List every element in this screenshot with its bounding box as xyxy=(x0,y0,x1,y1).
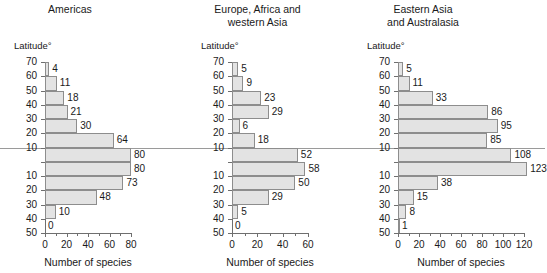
bar xyxy=(45,205,56,219)
bar xyxy=(398,219,400,233)
x-axis-minor-tick xyxy=(270,233,271,236)
x-axis-major-tick xyxy=(232,233,233,237)
y-axis-tick-label: 30 xyxy=(196,199,224,210)
x-axis-tick-label: 20 xyxy=(243,239,271,250)
y-axis-tick-label: 30 xyxy=(9,199,37,210)
x-axis-minor-tick xyxy=(472,233,473,236)
y-axis-tick-label: 40 xyxy=(362,213,390,224)
bar-value-label: 10 xyxy=(59,206,70,217)
y-axis-tick-label: 10 xyxy=(362,170,390,181)
x-axis-minor-tick xyxy=(295,233,296,236)
y-axis-tick-label: 40 xyxy=(9,99,37,110)
bar-value-label: 15 xyxy=(417,191,428,202)
bar-value-label: 11 xyxy=(413,77,423,88)
bar-value-label: 33 xyxy=(436,92,447,103)
y-axis-tick-label: 70 xyxy=(196,56,224,67)
panel-americas: AmericasLatitude°70605040302010102030405… xyxy=(0,0,175,273)
bar-value-label: 58 xyxy=(308,163,319,174)
x-axis-minor-tick xyxy=(409,233,410,236)
y-axis-tick-label: 40 xyxy=(196,99,224,110)
bar-value-label: 11 xyxy=(60,77,70,88)
bar-value-label: 29 xyxy=(272,106,283,117)
bar xyxy=(232,91,261,105)
x-axis-caption: Number of species xyxy=(210,256,330,268)
bar-value-label: 73 xyxy=(126,177,137,188)
bar xyxy=(398,205,406,219)
x-axis-major-tick xyxy=(398,233,399,237)
bar xyxy=(232,76,243,90)
bar xyxy=(232,62,238,76)
bar xyxy=(398,148,511,162)
bar xyxy=(398,105,488,119)
bar-value-label: 0 xyxy=(235,220,241,231)
bar xyxy=(45,76,57,90)
x-axis-caption: Number of species xyxy=(376,256,546,268)
bar xyxy=(232,105,269,119)
y-axis-tick-label: 50 xyxy=(196,227,224,238)
x-axis-tick-label: 80 xyxy=(117,239,145,250)
bar xyxy=(232,176,295,190)
y-axis-tick-label: 20 xyxy=(362,127,390,138)
latitude-axis-title: Latitude° xyxy=(367,40,405,51)
x-axis-caption: Number of species xyxy=(23,256,153,268)
bar-value-label: 5 xyxy=(241,206,247,217)
y-axis-tick-label: 10 xyxy=(362,142,390,153)
bar xyxy=(398,176,438,190)
bar-value-label: 18 xyxy=(258,134,269,145)
y-axis-tick-label: 20 xyxy=(362,184,390,195)
x-axis-major-tick xyxy=(461,233,462,237)
bar xyxy=(232,119,240,133)
bar-value-label: 5 xyxy=(406,63,412,74)
bar xyxy=(45,62,49,76)
x-axis-tick-label: 40 xyxy=(269,239,297,250)
bar xyxy=(398,76,410,90)
y-axis-tick-label: 20 xyxy=(9,184,37,195)
plot-area: 7060504030201010203040500204060801001205… xyxy=(398,62,524,233)
x-axis-tick-label: 120 xyxy=(510,239,538,250)
x-axis-major-tick xyxy=(45,233,46,237)
bar-value-label: 23 xyxy=(264,92,275,103)
bar xyxy=(45,190,97,204)
y-axis-tick-label: 50 xyxy=(362,85,390,96)
x-axis-minor-tick xyxy=(120,233,121,236)
x-axis-major-tick xyxy=(67,233,68,237)
y-axis-tick xyxy=(41,219,45,220)
y-axis-tick-label: 30 xyxy=(196,113,224,124)
plot-area: 7060504030201010203040500204060592329618… xyxy=(232,62,308,233)
y-axis-tick xyxy=(228,219,232,220)
y-axis-tick-label: 30 xyxy=(362,113,390,124)
latitude-axis-title: Latitude° xyxy=(14,40,52,51)
x-axis-major-tick xyxy=(257,233,258,237)
x-axis-major-tick xyxy=(419,233,420,237)
y-axis-tick-label: 70 xyxy=(362,56,390,67)
panel-europe-africa-western-asia: Europe, Africa and western AsiaLatitude°… xyxy=(175,0,350,273)
bar xyxy=(45,119,77,133)
y-axis-tick-label: 20 xyxy=(9,127,37,138)
bar-value-label: 80 xyxy=(134,163,145,174)
y-axis-tick-label: 50 xyxy=(362,227,390,238)
bar-value-label: 50 xyxy=(298,177,309,188)
x-axis-minor-tick xyxy=(493,233,494,236)
x-axis-major-tick xyxy=(440,233,441,237)
y-axis-tick-label: 10 xyxy=(9,170,37,181)
bar xyxy=(232,133,255,147)
bar-value-label: 64 xyxy=(117,134,128,145)
bar xyxy=(398,133,487,147)
y-axis-tick-label: 30 xyxy=(362,199,390,210)
bar-value-label: 123 xyxy=(530,163,547,174)
bar xyxy=(398,190,414,204)
bar xyxy=(232,162,305,176)
bar xyxy=(398,62,403,76)
bar xyxy=(45,133,114,147)
latitude-axis-title: Latitude° xyxy=(201,40,239,51)
bar xyxy=(232,148,298,162)
y-axis-tick-label: 40 xyxy=(196,213,224,224)
bar-value-label: 95 xyxy=(501,120,512,131)
bar-value-label: 29 xyxy=(272,191,283,202)
plot-area: 7060504030201010203040500204060804111821… xyxy=(45,62,131,233)
bar xyxy=(45,91,64,105)
x-axis-tick-label: 60 xyxy=(294,239,322,250)
bar xyxy=(45,162,131,176)
y-axis-tick-label: 10 xyxy=(196,142,224,153)
